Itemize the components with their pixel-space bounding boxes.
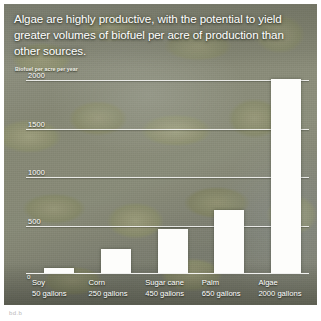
y-axis-tick-label-1500: 1500 [28,120,45,129]
chart-plot-area: 0500100015002000 [26,80,309,274]
headline-text: Algae are highly productive, with the po… [14,11,300,60]
caption-mark: bd.b [9,310,22,316]
category-name: Sugar cane [145,278,184,289]
category-value: 2000 gallons [258,289,301,300]
y-axis-tick-label-2000: 2000 [28,71,45,80]
category-name: Corn [89,278,128,289]
bar-palm[interactable] [214,210,244,273]
category-value: 650 gallons [202,289,241,300]
category-value: 250 gallons [89,289,128,300]
bar-sugar-cane[interactable] [158,229,188,273]
category-label-sugar-cane: Sugar cane450 gallons [145,278,184,299]
category-label-corn: Corn250 gallons [89,278,128,299]
x-axis-line [26,273,309,274]
gridline-500 [26,226,309,227]
bar-algae[interactable] [271,79,301,273]
y-axis-tick-label-1000: 1000 [28,168,45,177]
category-label-palm: Palm650 gallons [202,278,241,299]
axis-unit-subtitle: Biofuel per acre per year [15,66,78,72]
gridline-1000 [26,177,309,178]
category-value: 450 gallons [145,289,184,300]
y-axis-tick-label-500: 500 [28,217,41,226]
category-name: Algae [258,278,301,289]
gridline-2000 [26,80,309,81]
category-labels-group: Soy50 gallonsCorn250 gallonsSugar cane45… [26,278,309,304]
bottom-white-strip [0,306,321,321]
bar-corn[interactable] [101,249,131,273]
category-label-soy: Soy50 gallons [32,278,67,299]
category-value: 50 gallons [32,289,67,300]
category-name: Palm [202,278,241,289]
infographic-figure: Algae are highly productive, with the po… [0,0,321,321]
gridline-1500 [26,129,309,130]
category-label-algae: Algae2000 gallons [258,278,301,299]
category-name: Soy [32,278,67,289]
